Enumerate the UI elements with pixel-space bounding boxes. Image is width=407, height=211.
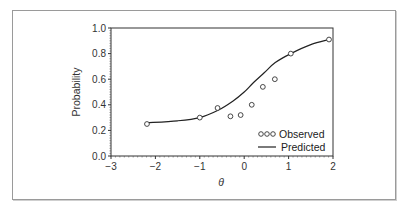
observed-point — [228, 114, 233, 119]
observed-point — [215, 106, 220, 111]
legend-predicted-label: Predicted — [281, 141, 326, 153]
x-axis: −3−2−1012 — [105, 156, 336, 172]
x-tick-label: −1 — [194, 161, 206, 172]
observed-points — [145, 37, 332, 126]
chart-canvas: 0.00.20.40.60.81.0 −3−2−1012 Probability… — [0, 0, 407, 211]
legend-observed-label: Observed — [279, 128, 325, 140]
legend: Observed Predicted — [258, 128, 326, 153]
x-tick-label: 0 — [241, 161, 247, 172]
y-axis-label: Probability — [70, 67, 82, 117]
observed-point — [145, 122, 150, 127]
x-tick-label: 2 — [330, 161, 336, 172]
observed-point — [260, 84, 265, 89]
observed-point — [238, 113, 243, 118]
x-tick-label: 1 — [286, 161, 292, 172]
y-tick-label: 0.4 — [92, 99, 106, 110]
y-tick-label: 0.6 — [92, 74, 106, 85]
y-tick-label: 1.0 — [92, 23, 106, 34]
observed-point — [288, 51, 293, 56]
x-axis-label: θ — [218, 176, 224, 188]
predicted-curve — [147, 40, 329, 123]
y-tick-label: 0.0 — [92, 151, 106, 162]
observed-point — [327, 37, 332, 42]
x-tick-label: −2 — [150, 161, 162, 172]
y-tick-label: 0.2 — [92, 125, 106, 136]
x-tick-label: −3 — [105, 161, 117, 172]
y-tick-label: 0.8 — [92, 48, 106, 59]
legend-observed-symbol — [259, 132, 276, 137]
observed-point — [197, 115, 202, 120]
observed-point — [249, 102, 254, 107]
observed-point — [272, 77, 277, 82]
y-axis: 0.00.20.40.60.81.0 — [92, 23, 111, 162]
